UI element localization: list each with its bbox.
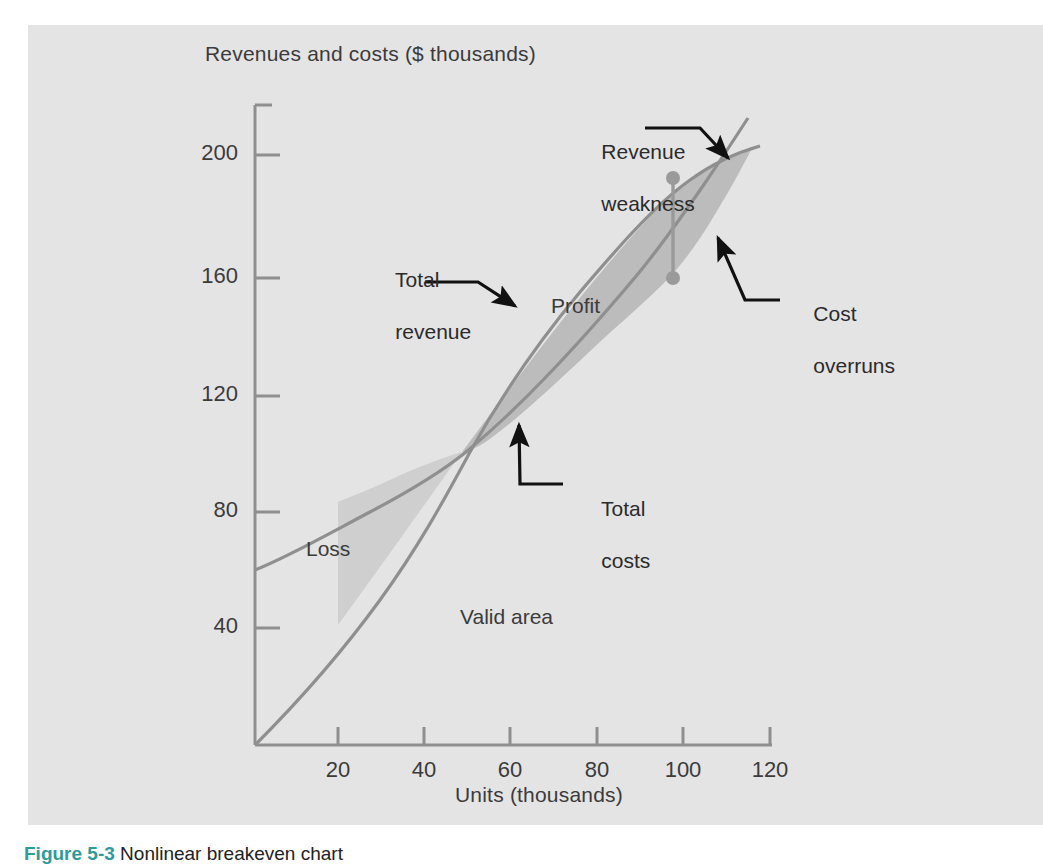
- total-revenue-line2: revenue: [395, 320, 471, 343]
- total-costs-line1: Total: [601, 497, 645, 520]
- annotation-cost-overruns: Cost overruns: [790, 275, 895, 405]
- caption-number: Figure 5-3: [24, 843, 115, 864]
- cost-point-marker: [666, 271, 680, 285]
- annotation-revenue-weakness: Revenue weakness: [578, 113, 695, 243]
- loss-region-label: Loss: [306, 537, 350, 561]
- xtick-label-80: 80: [567, 757, 627, 783]
- total-costs-line2: costs: [601, 549, 650, 572]
- figure-caption: Figure 5-3 Nonlinear breakeven chart: [24, 843, 343, 865]
- ytick-label-40: 40: [178, 613, 238, 639]
- ytick-label-160: 160: [178, 263, 238, 289]
- ytick-label-120: 120: [178, 381, 238, 407]
- annotation-total-costs: Total costs: [578, 470, 650, 600]
- caption-text: Nonlinear breakeven chart: [120, 843, 343, 864]
- x-axis-title: Units (thousands): [455, 783, 623, 807]
- ytick-label-80: 80: [178, 497, 238, 523]
- xtick-label-100: 100: [653, 757, 713, 783]
- loss-region: [338, 452, 462, 625]
- xtick-label-60: 60: [480, 757, 540, 783]
- annotation-total-revenue: Total revenue: [372, 241, 422, 371]
- revenue-weakness-line1: Revenue: [601, 140, 685, 163]
- xtick-label-120: 120: [740, 757, 800, 783]
- revenue-weakness-line2: weakness: [601, 192, 694, 215]
- xtick-label-40: 40: [394, 757, 454, 783]
- cost-overruns-line1: Cost: [813, 302, 856, 325]
- valid-area-label: Valid area: [460, 605, 553, 629]
- profit-region-label: Profit: [551, 294, 600, 318]
- xtick-label-20: 20: [308, 757, 368, 783]
- y-axis-title: Revenues and costs ($ thousands): [205, 42, 536, 66]
- total-revenue-line1: Total: [395, 268, 439, 291]
- ytick-label-200: 200: [178, 140, 238, 166]
- cost-overruns-arrow: [718, 238, 780, 300]
- total-costs-arrow: [519, 425, 563, 484]
- cost-overruns-line2: overruns: [813, 354, 895, 377]
